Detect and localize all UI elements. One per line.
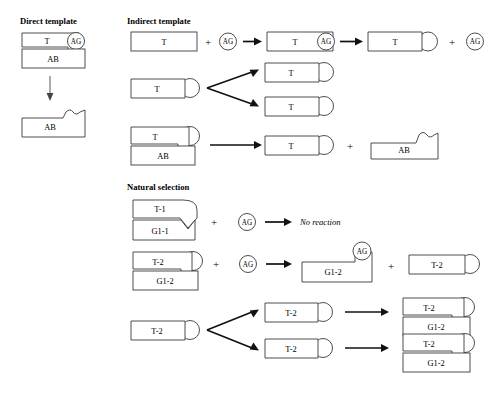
natural-r2-plus-2: + — [388, 260, 394, 272]
indirect-r1-t-label: T — [161, 38, 166, 47]
direct-ag-label: AG — [71, 38, 81, 46]
indirect-r3-source-ab-label: AB — [157, 152, 169, 161]
indirect-r1-plus-2: + — [449, 36, 455, 48]
natural-r3-prod2-bottom-label: G1-2 — [427, 359, 444, 368]
natural-r3-arrow-2 — [345, 344, 389, 352]
natural-r3-arrow-1 — [345, 308, 389, 316]
heading-direct-template: Direct template — [20, 16, 77, 26]
natural-r2-product-g12-label: G1-2 — [324, 268, 341, 277]
indirect-r2-product2-label: T — [288, 103, 293, 112]
indirect-r3-product-ab-label: AB — [398, 146, 410, 155]
natural-row3-group: T-2 T-2 T-2 G1-2 T-2 — [131, 298, 475, 373]
direct-strand-t-label: T — [44, 37, 49, 46]
indirect-r3-source-t-block — [131, 127, 189, 147]
indirect-r1-ag-label-1: AG — [223, 38, 233, 46]
natural-r2-g12-label: G1-2 — [156, 277, 173, 286]
heading-indirect-template: Indirect template — [127, 16, 191, 26]
direct-strand-ab-label: AB — [47, 55, 59, 64]
indirect-r3-source-t-label: T — [152, 133, 157, 142]
indirect-r1-ag-label-3: AG — [470, 38, 480, 46]
natural-r2-plus-1: + — [213, 258, 219, 270]
direct-product-ab-label: AB — [44, 123, 56, 132]
natural-r2-free-t2-label: T-2 — [431, 261, 442, 270]
indirect-r2-source-label: T — [154, 85, 159, 94]
indirect-r1-plus-1: + — [205, 36, 211, 48]
natural-r1-no-reaction-label: No reaction — [299, 217, 341, 227]
indirect-r2-branch-arrows — [207, 70, 259, 107]
natural-row2-group: T-2 G1-2 + AG G1-2 AG + T-2 — [133, 242, 480, 290]
natural-r3-prod1-bottom-label: G1-2 — [427, 323, 444, 332]
natural-r3-inter1-label: T-2 — [285, 309, 296, 318]
natural-r1-ag-label: AG — [242, 219, 252, 227]
indirect-r3-arrow — [210, 141, 262, 149]
indirect-r1-t-tail-label: T — [392, 38, 397, 47]
natural-r2-arrow — [266, 260, 292, 268]
natural-r1-plus: + — [211, 216, 217, 228]
natural-r3-prod2-top-label: T-2 — [423, 340, 434, 349]
natural-r1-g11-label: G1-1 — [151, 227, 168, 236]
natural-r3-source-label: T-2 — [151, 327, 162, 336]
indirect-r3-product-t-label: T — [288, 142, 293, 151]
figure-canvas: Direct template Indirect template Natura… — [0, 0, 493, 393]
natural-r1-t1-label: T-1 — [154, 205, 165, 214]
heading-natural-selection: Natural selection — [127, 182, 190, 192]
indirect-row1-group: T + AG T AG T + AG — [131, 32, 484, 51]
natural-r3-inter2-label: T-2 — [285, 345, 296, 354]
indirect-r1-ag-label-2: AG — [321, 38, 331, 46]
natural-r2-t2-label: T-2 — [152, 258, 163, 267]
natural-r2-ag-label-1: AG — [243, 261, 253, 269]
indirect-r1-arrow-2 — [340, 38, 363, 46]
natural-r2-ag-label-2: AG — [357, 248, 367, 256]
indirect-r3-plus: + — [347, 140, 353, 152]
natural-r3-branch-arrows — [207, 310, 259, 351]
indirect-r1-arrow-1 — [243, 38, 262, 46]
indirect-r1-t-ag-label: T — [292, 38, 297, 47]
direct-template-group: T AG AB AB — [22, 33, 85, 138]
natural-row1-group: T-1 G1-1 + AG No reaction — [133, 200, 341, 240]
indirect-row3-group: T AB T + AB — [131, 127, 438, 166]
natural-r1-arrow — [265, 218, 292, 226]
indirect-row2-group: T T T — [131, 63, 334, 117]
natural-r3-prod1-top-label: T-2 — [423, 304, 434, 313]
indirect-r2-product1-label: T — [288, 69, 293, 78]
direct-down-arrow — [47, 76, 54, 101]
